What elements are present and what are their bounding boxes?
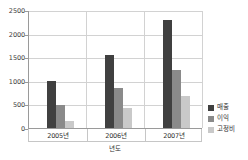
bar-profit-2007[interactable]	[172, 70, 181, 129]
x-tick-label-2005: 2005년	[29, 129, 87, 141]
bar-fixedcost-2007[interactable]	[181, 96, 190, 128]
legend-item-fixedcost[interactable]: 고정비	[208, 124, 248, 135]
legend-item-sales[interactable]: 매출	[208, 102, 248, 113]
bar-chart: 2500 2000 1500 1000 500 0	[0, 0, 248, 160]
legend-item-profit[interactable]: 이익	[208, 113, 248, 124]
legend-swatch-icon	[208, 105, 214, 111]
legend-label: 매출	[217, 104, 229, 111]
x-tick-label-2007: 2007년	[145, 129, 203, 141]
plot-area	[28, 11, 202, 129]
bar-fixedcost-2006[interactable]	[123, 108, 132, 128]
x-tick-label-2006: 2006년	[87, 129, 145, 141]
legend-swatch-icon	[208, 127, 214, 133]
legend: 매출 이익 고정비	[208, 102, 248, 135]
bar-sales-2005[interactable]	[47, 81, 56, 128]
bar-group-2006	[87, 11, 144, 128]
bar-profit-2005[interactable]	[56, 105, 65, 128]
x-axis-title: 년도	[28, 143, 202, 153]
legend-label: 고정비	[217, 126, 234, 133]
bar-profit-2006[interactable]	[114, 88, 123, 128]
y-tick-label: 2500	[0, 8, 25, 15]
bar-group-2005	[29, 11, 86, 128]
legend-label: 이익	[217, 115, 229, 122]
bar-group-2007	[145, 11, 202, 128]
bar-sales-2007[interactable]	[163, 20, 172, 128]
y-tick-label: 2000	[0, 31, 25, 38]
bar-fixedcost-2005[interactable]	[65, 121, 74, 128]
y-tick-label: 500	[0, 102, 25, 109]
category-divider	[202, 11, 203, 128]
legend-swatch-icon	[208, 116, 214, 122]
y-tick-label: 0	[0, 126, 25, 133]
x-axis-label-band: 2005년 2006년 2007년	[28, 129, 202, 142]
y-tick-label: 1000	[0, 79, 25, 86]
y-tick-label: 1500	[0, 55, 25, 62]
bar-sales-2006[interactable]	[105, 55, 114, 128]
